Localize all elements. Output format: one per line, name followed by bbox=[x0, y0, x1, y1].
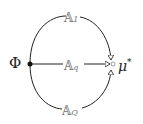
mu-superscript: * bbox=[127, 57, 132, 67]
target-node-label: μ* bbox=[118, 58, 132, 73]
path-label-top: 𝔸1 bbox=[64, 9, 78, 25]
path-label-bottom-subscript: Q bbox=[71, 108, 78, 117]
path-label-top-symbol: 𝔸 bbox=[64, 11, 73, 25]
source-node-dot bbox=[28, 62, 33, 67]
source-node-label: Φ bbox=[9, 56, 21, 71]
phi-symbol: Φ bbox=[9, 54, 21, 72]
mu-symbol: μ bbox=[118, 58, 127, 74]
path-label-bottom: 𝔸Q bbox=[62, 102, 78, 118]
path-label-top-subscript: 1 bbox=[73, 15, 78, 24]
path-label-middle-subscript: q bbox=[73, 63, 78, 72]
path-label-bottom-symbol: 𝔸 bbox=[62, 104, 71, 118]
path-label-middle-symbol: 𝔸 bbox=[64, 59, 73, 73]
path-label-middle: 𝔸q bbox=[64, 57, 78, 73]
target-node-circle bbox=[111, 62, 115, 66]
